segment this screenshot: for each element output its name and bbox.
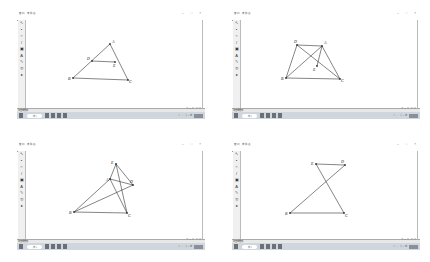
taskbar-app-icon[interactable] (260, 244, 264, 249)
point-E[interactable] (115, 163, 117, 165)
point-B[interactable] (73, 211, 75, 213)
os-taskbar: 搜索 ∧ □ ⌘ • 中 (232, 112, 420, 119)
segment-DA[interactable] (297, 45, 322, 46)
drawing-canvas[interactable]: EADBC (26, 151, 203, 239)
taskbar-search[interactable]: 搜索 (27, 245, 42, 249)
system-tray[interactable]: ∧ □ ⌘ • 中 (393, 114, 408, 117)
drawing-canvas[interactable]: DAEBC (241, 20, 418, 108)
point-A[interactable] (321, 45, 323, 47)
clock[interactable] (194, 114, 203, 118)
segment-BC[interactable] (73, 78, 128, 80)
segment-DE[interactable] (92, 61, 115, 62)
start-button-icon[interactable] (19, 244, 23, 249)
start-button-icon[interactable] (234, 113, 238, 118)
os-taskbar: 搜索 ∧ □ ⌘ • 中 (17, 243, 205, 250)
status-icons[interactable]: □ • ☐ ☐ ☐ (402, 238, 417, 241)
point-label: A (323, 40, 327, 45)
point-A[interactable] (109, 43, 111, 45)
taskbar-app-icon[interactable] (260, 113, 264, 118)
point-D[interactable] (344, 164, 346, 166)
taskbar-search[interactable]: 搜索 (27, 114, 42, 118)
taskbar-app-icon[interactable] (272, 244, 276, 249)
point-label: E (110, 160, 114, 165)
segment-BC[interactable] (74, 212, 127, 213)
point-label: C (128, 213, 131, 218)
custom-tool-icon[interactable]: ▸ (233, 72, 240, 79)
tool-palette: ↖•○/▣A✎①▸ (233, 20, 241, 110)
taskbar-app-icon[interactable] (45, 244, 49, 249)
start-button-icon[interactable] (234, 244, 238, 249)
taskbar-app-icon[interactable] (51, 113, 55, 118)
segment-AC[interactable] (322, 46, 340, 79)
tool-palette: ↖•○/▣A✎①▸ (233, 151, 241, 241)
segment-AC[interactable] (110, 179, 127, 213)
window-controls[interactable]: – □ × (182, 143, 204, 146)
point-E[interactable] (316, 65, 318, 67)
point-D[interactable] (296, 44, 298, 46)
taskbar-search[interactable]: 搜索 (242, 245, 257, 249)
status-icons[interactable]: □ • ☐ ☐ ☐ (402, 107, 417, 110)
geometry-figure[interactable]: DAEBC (241, 20, 417, 108)
point-label: E (112, 63, 116, 68)
window-title: 窗口 - 未命名 (19, 12, 36, 15)
point-label: D (86, 56, 90, 61)
point-B[interactable] (289, 212, 291, 214)
segment-EA[interactable] (110, 164, 116, 179)
point-label: A (111, 39, 115, 44)
point-E[interactable] (315, 163, 317, 165)
segment-AB[interactable] (74, 179, 110, 212)
segment-ED[interactable] (316, 164, 345, 165)
taskbar-app-icon[interactable] (63, 113, 67, 118)
point-B[interactable] (72, 77, 74, 79)
window-controls[interactable]: – □ × (397, 12, 419, 15)
window-controls[interactable]: – □ × (397, 143, 419, 146)
status-icons[interactable]: □ • ☐ ☐ ☐ (187, 238, 202, 241)
point-label: E (310, 161, 314, 166)
segment-EC[interactable] (316, 164, 344, 213)
segment-BC[interactable] (286, 78, 340, 79)
os-taskbar: 搜索 ∧ □ ⌘ • 中 (17, 112, 205, 119)
clock[interactable] (409, 114, 418, 118)
point-label: B (69, 210, 72, 215)
taskbar-app-icon[interactable] (266, 244, 270, 249)
custom-tool-icon[interactable]: ▸ (233, 203, 240, 210)
taskbar-app-icon[interactable] (51, 244, 55, 249)
geometry-figure[interactable]: EDBC (241, 151, 417, 239)
point-D[interactable] (132, 184, 134, 186)
point-label: B (68, 76, 71, 81)
point-B[interactable] (285, 77, 287, 79)
taskbar-app-icon[interactable] (45, 113, 49, 118)
taskbar-app-icon[interactable] (278, 244, 282, 249)
drawing-canvas[interactable]: EDBC (241, 151, 418, 239)
app-window-bottom-left: 窗口 - 未命名 – □ × 文件编辑显示构造变换度量数据绘图窗口帮助 ↖•○/… (17, 143, 207, 255)
geometry-figure[interactable]: EADBC (26, 151, 202, 239)
point-label: E (312, 67, 316, 72)
app-window-top-left: 窗口 - 未命名 – □ × 文件编辑显示构造变换度量数据绘图窗口帮助 ↖•○/… (17, 12, 207, 124)
drawing-canvas[interactable]: ADEBC (26, 20, 203, 108)
point-A[interactable] (109, 178, 111, 180)
system-tray[interactable]: ∧ □ ⌘ • 中 (393, 245, 408, 248)
point-D[interactable] (91, 60, 93, 62)
segment-BD[interactable] (290, 165, 345, 213)
custom-tool-icon[interactable]: ▸ (18, 72, 25, 79)
system-tray[interactable]: ∧ □ ⌘ • 中 (178, 114, 193, 117)
custom-tool-icon[interactable]: ▸ (18, 203, 25, 210)
status-icons[interactable]: □ • ☐ ☐ ☐ (187, 107, 202, 110)
start-button-icon[interactable] (19, 113, 23, 118)
clock[interactable] (409, 245, 418, 249)
system-tray[interactable]: ∧ □ ⌘ • 中 (178, 245, 193, 248)
point-label: D (293, 39, 297, 44)
window-controls[interactable]: – □ × (182, 12, 204, 15)
taskbar-search[interactable]: 搜索 (242, 114, 257, 118)
point-label: D (129, 179, 133, 184)
taskbar-app-icon[interactable] (266, 113, 270, 118)
taskbar-app-icon[interactable] (278, 113, 282, 118)
clock[interactable] (194, 245, 203, 249)
segment-DC[interactable] (297, 45, 340, 79)
geometry-figure[interactable]: ADEBC (26, 20, 202, 108)
taskbar-app-icon[interactable] (272, 113, 276, 118)
taskbar-app-icon[interactable] (57, 113, 61, 118)
taskbar-app-icon[interactable] (63, 244, 67, 249)
tool-palette: ↖•○/▣A✎①▸ (18, 151, 26, 241)
taskbar-app-icon[interactable] (57, 244, 61, 249)
